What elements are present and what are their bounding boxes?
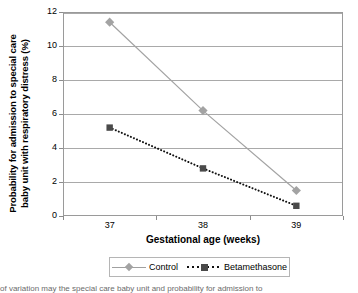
chart-figure: Probability for admission to special car… (0, 0, 358, 293)
x-tick-mark (63, 216, 64, 220)
x-tick-label: 39 (276, 220, 316, 230)
y-tick-label: 4 (35, 142, 57, 152)
y-tick-label: 10 (35, 40, 57, 50)
legend-label-betamethasone: Betamethasone (224, 262, 287, 272)
x-tick-mark (343, 216, 344, 220)
plot-area (63, 12, 343, 216)
legend-item-betamethasone[interactable]: Betamethasone (187, 262, 287, 272)
grid-line (64, 114, 342, 115)
y-axis-tick-labels: 024681012 (33, 12, 57, 217)
grid-line (64, 182, 342, 183)
y-tick-label: 0 (35, 210, 57, 220)
y-tick-label: 6 (35, 108, 57, 118)
y-tick-label: 2 (35, 176, 57, 186)
legend-item-control[interactable]: Control (112, 262, 178, 272)
grid-line (64, 80, 342, 81)
clipped-caption: of variation may the special care baby u… (0, 286, 358, 293)
grid-line (64, 46, 342, 47)
y-axis-title-line2: baby unit with respiratory distress (%) (18, 14, 30, 234)
x-tick-label: 37 (90, 220, 130, 230)
chart-legend: Control Betamethasone (109, 257, 290, 277)
grid-line (64, 13, 342, 14)
grid-line (64, 148, 342, 149)
x-tick-mark (156, 216, 157, 220)
x-axis-tick-labels: 373839 (63, 220, 343, 234)
x-tick-mark (250, 216, 251, 220)
clipped-caption-text: of variation may the special care baby u… (0, 286, 358, 293)
y-tick-label: 8 (35, 74, 57, 84)
legend-marker-square-icon (187, 262, 221, 272)
legend-label-control: Control (149, 262, 178, 272)
legend-marker-diamond-icon (112, 262, 146, 272)
y-axis-title: Probability for admission to special car… (7, 14, 30, 234)
y-tick-label: 12 (35, 6, 57, 16)
x-tick-label: 38 (183, 220, 223, 230)
y-axis-title-line1: Probability for admission to special car… (7, 34, 18, 213)
x-axis-title: Gestational age (weeks) (63, 234, 343, 245)
